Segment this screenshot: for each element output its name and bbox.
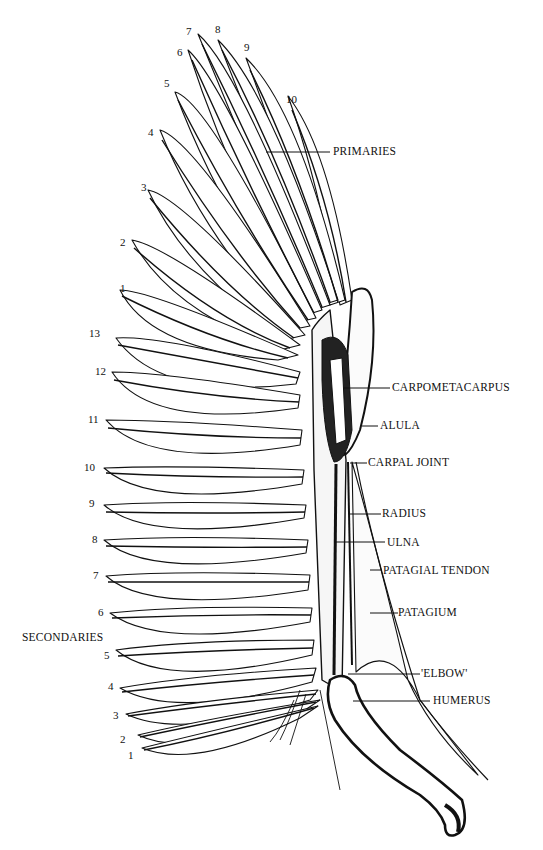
secondaries-label: SECONDARIES [22, 632, 103, 644]
secondary-number-6: 6 [98, 607, 104, 618]
wing-illustration [0, 0, 543, 850]
alula-label: ALULA [380, 420, 420, 432]
ulna-label: ULNA [387, 537, 420, 549]
primary-number-5: 5 [164, 78, 170, 89]
primary-number-2: 2 [120, 237, 126, 248]
primaries-label: PRIMARIES [333, 146, 396, 158]
patagial-tendon-label: PATAGIAL TENDON [383, 565, 490, 577]
secondary-number-10: 10 [84, 462, 95, 473]
humerus-label: HUMERUS [433, 695, 491, 707]
secondary-number-1: 1 [128, 750, 134, 761]
carpometacarpus-label: CARPOMETACARPUS [392, 382, 510, 394]
secondary-number-12: 12 [95, 366, 106, 377]
secondary-number-3: 3 [113, 710, 119, 721]
patagium-label: PATAGIUM [398, 607, 457, 619]
radius-bone [348, 462, 352, 665]
primary-number-1: 1 [120, 283, 126, 294]
primary-number-4: 4 [148, 127, 154, 138]
secondary-number-11: 11 [88, 414, 99, 425]
secondary-number-2: 2 [120, 734, 126, 745]
secondary-number-7: 7 [93, 570, 99, 581]
ulna-bone [334, 464, 336, 675]
secondary-number-13: 13 [89, 328, 100, 339]
primary-number-8: 8 [215, 24, 221, 35]
wing-diagram: 1 2 3 4 5 6 7 8 9 10 13 12 11 10 9 8 7 6… [0, 0, 543, 850]
primary-number-6: 6 [177, 47, 183, 58]
secondary-number-5: 5 [104, 650, 110, 661]
secondary-number-9: 9 [89, 498, 95, 509]
elbow-label: 'ELBOW' [421, 668, 467, 680]
radius-label: RADIUS [382, 508, 426, 520]
secondary-number-8: 8 [92, 534, 98, 545]
primary-number-10: 10 [286, 94, 297, 105]
primary-number-3: 3 [141, 182, 147, 193]
secondary-number-4: 4 [108, 681, 114, 692]
primary-number-7: 7 [186, 26, 192, 37]
primary-number-9: 9 [244, 42, 250, 53]
carpal-joint-label: CARPAL JOINT [368, 457, 449, 469]
